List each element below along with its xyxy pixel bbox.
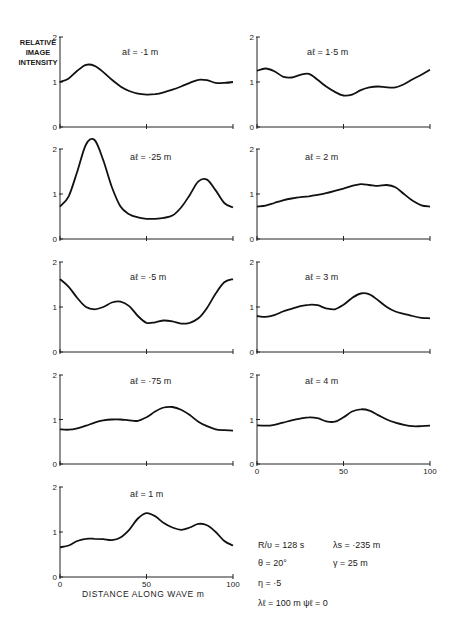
intensity-curve: [60, 65, 233, 95]
y-tick-label: 2: [53, 258, 58, 267]
y-tick-label: 1: [250, 303, 255, 312]
y-tick-label: 0: [53, 235, 58, 244]
panel-title: aℓ = 3 m: [305, 272, 338, 282]
x-tick-label: 0: [255, 467, 260, 476]
parameter-text: λs = ·235 m: [333, 540, 380, 550]
intensity-curve: [257, 409, 430, 426]
y-tick-label: 2: [250, 258, 255, 267]
intensity-curve: [257, 293, 430, 318]
parameter-text: θ = 20°: [258, 558, 287, 568]
x-tick-label: 100: [423, 467, 437, 476]
y-tick-label: 2: [250, 33, 255, 42]
y-tick-label: 1: [250, 78, 255, 87]
y-tick-label: 2: [250, 371, 255, 380]
figure-canvas: 012aℓ = ·1 m012aℓ = 1·5 m012aℓ = ·25 m01…: [0, 0, 460, 628]
intensity-curve: [60, 513, 233, 547]
y-tick-label: 2: [53, 483, 58, 492]
y-tick-label: 1: [250, 190, 255, 199]
parameter-text: γ = 25 m: [333, 558, 368, 568]
chart-panel-1: 012aℓ = 1·5 m: [250, 33, 430, 132]
y-axis-label: RELATIVE: [20, 38, 57, 47]
parameter-text: R/υ = 128 s: [258, 540, 305, 550]
y-tick-label: 0: [250, 123, 255, 132]
panel-title: aℓ = ·1 m: [122, 47, 158, 57]
x-tick-label: 50: [142, 580, 151, 589]
panel-title: aℓ = 2 m: [305, 152, 338, 162]
intensity-curve: [257, 184, 430, 207]
y-tick-label: 1: [53, 303, 58, 312]
chart-panel-7: 012050100aℓ = 4 m: [250, 371, 438, 476]
chart-panel-8: 012050100aℓ = 1 m: [53, 483, 241, 589]
y-tick-label: 1: [53, 190, 58, 199]
y-tick-label: 0: [250, 348, 255, 357]
y-axis-label: INTENSITY: [18, 58, 57, 67]
y-tick-label: 0: [53, 123, 58, 132]
panel-title: aℓ = 1·5 m: [307, 47, 348, 57]
chart-panel-3: 012aℓ = 2 m: [250, 145, 430, 244]
intensity-curve: [257, 68, 430, 95]
y-tick-label: 0: [53, 348, 58, 357]
chart-panel-0: 012aℓ = ·1 m: [53, 33, 233, 132]
intensity-curve: [60, 407, 233, 431]
panel-title: aℓ = 1 m: [130, 489, 163, 499]
chart-panel-5: 012aℓ = 3 m: [250, 258, 430, 357]
y-tick-label: 1: [53, 416, 58, 425]
panel-title: aℓ = 4 m: [305, 376, 338, 386]
x-tick-label: 100: [226, 580, 240, 589]
x-axis-label: DISTANCE ALONG WAVE m: [82, 589, 205, 599]
chart-panel-6: 012aℓ = ·75 m: [53, 371, 233, 469]
chart-panel-2: 012aℓ = ·25 m: [53, 139, 233, 244]
parameter-text: η = ·5: [258, 578, 281, 588]
intensity-curve: [60, 139, 233, 219]
panel-title: aℓ = ·25 m: [130, 152, 171, 162]
panel-title: aℓ = ·5 m: [130, 272, 166, 282]
y-tick-label: 1: [53, 528, 58, 537]
y-tick-label: 2: [53, 145, 58, 154]
y-tick-label: 0: [53, 460, 58, 469]
panel-title: aℓ = ·75 m: [130, 376, 171, 386]
y-axis-label: IMAGE: [26, 48, 51, 57]
intensity-curve: [60, 279, 233, 324]
y-tick-label: 1: [53, 78, 58, 87]
parameter-text: λℓ = 100 m ψℓ = 0: [258, 598, 328, 608]
y-tick-label: 2: [53, 371, 58, 380]
x-tick-label: 0: [58, 580, 63, 589]
x-tick-label: 50: [339, 467, 348, 476]
y-tick-label: 0: [250, 235, 255, 244]
y-tick-label: 1: [250, 416, 255, 425]
chart-panel-4: 012aℓ = ·5 m: [53, 258, 233, 357]
y-tick-label: 2: [250, 145, 255, 154]
